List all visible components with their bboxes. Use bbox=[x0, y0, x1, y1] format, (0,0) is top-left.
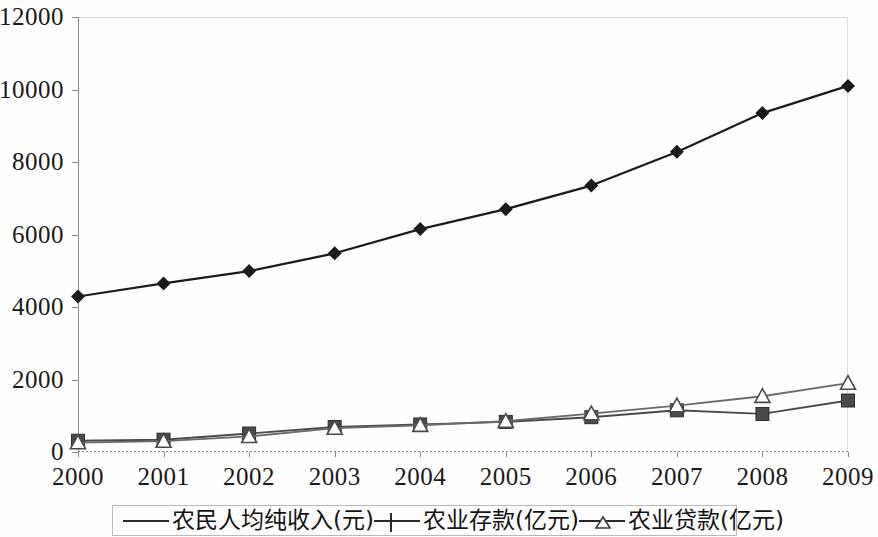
x-tick bbox=[762, 452, 763, 457]
legend-label-loans: 农业贷款(亿元) bbox=[628, 509, 784, 532]
square-marker-icon bbox=[374, 514, 420, 528]
plot-area bbox=[78, 17, 848, 452]
data-point-marker bbox=[670, 145, 684, 159]
x-tick bbox=[249, 452, 250, 457]
y-axis-tick-label: 12000 bbox=[0, 4, 64, 29]
x-tick bbox=[164, 452, 165, 457]
y-axis-tick-label: 6000 bbox=[0, 222, 64, 247]
legend-item-income: 农民人均纯收入(元) bbox=[123, 509, 374, 532]
data-point-marker bbox=[841, 376, 856, 390]
y-axis-tick-label: 10000 bbox=[0, 77, 64, 102]
x-tick bbox=[677, 452, 678, 457]
x-tick bbox=[420, 452, 421, 457]
y-axis-tick-label: 4000 bbox=[0, 294, 64, 319]
data-point-marker bbox=[755, 106, 769, 120]
series-lines bbox=[78, 17, 848, 452]
x-axis-tick-label: 2001 bbox=[119, 464, 209, 489]
data-point-marker bbox=[328, 246, 342, 260]
x-axis-tick-label: 2008 bbox=[717, 464, 807, 489]
series-line bbox=[78, 86, 848, 297]
x-axis-tick-label: 2006 bbox=[546, 464, 636, 489]
triangle-marker-icon bbox=[579, 514, 625, 528]
series-line bbox=[78, 401, 848, 441]
x-axis-tick-label: 2005 bbox=[461, 464, 551, 489]
chart-legend: 农民人均纯收入(元) 农业存款(亿元) 农业贷款(亿元) bbox=[112, 505, 737, 536]
data-point-marker bbox=[157, 276, 171, 290]
data-point-marker bbox=[841, 79, 855, 93]
x-tick bbox=[78, 452, 79, 457]
x-axis-tick-label: 2007 bbox=[632, 464, 722, 489]
x-tick bbox=[848, 452, 849, 457]
x-axis-tick-label: 2000 bbox=[33, 464, 123, 489]
y-axis-tick-label: 2000 bbox=[0, 367, 64, 392]
legend-item-loans: 农业贷款(亿元) bbox=[579, 509, 784, 532]
data-point-marker bbox=[584, 179, 598, 193]
data-point-marker bbox=[413, 222, 427, 236]
data-point-marker bbox=[499, 202, 513, 216]
x-tick bbox=[506, 452, 507, 457]
data-point-marker bbox=[756, 407, 769, 420]
y-axis-tick-label: 0 bbox=[0, 439, 64, 464]
data-point-marker bbox=[842, 394, 855, 407]
legend-label-income: 农民人均纯收入(元) bbox=[172, 509, 374, 532]
diamond-marker-icon bbox=[123, 514, 169, 528]
x-axis-tick-label: 2004 bbox=[375, 464, 465, 489]
data-point-marker bbox=[242, 264, 256, 278]
x-tick bbox=[335, 452, 336, 457]
x-axis-tick-label: 2003 bbox=[290, 464, 380, 489]
x-axis-tick-label: 2009 bbox=[803, 464, 878, 489]
legend-label-deposits: 农业存款(亿元) bbox=[423, 509, 579, 532]
legend-item-deposits: 农业存款(亿元) bbox=[374, 509, 579, 532]
data-point-marker bbox=[71, 289, 85, 303]
x-tick bbox=[591, 452, 592, 457]
x-axis-tick-label: 2002 bbox=[204, 464, 294, 489]
y-axis-tick-label: 8000 bbox=[0, 149, 64, 174]
